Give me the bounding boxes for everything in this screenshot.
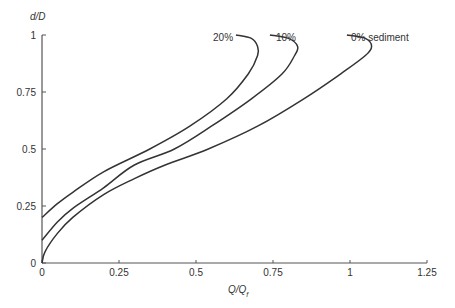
- x-tick-label: 1.25: [417, 267, 437, 278]
- curve-label: 0% sediment: [351, 32, 409, 43]
- curve-labels: 0% sediment10%20%: [213, 32, 409, 43]
- y-tick-label: 0.5: [22, 144, 36, 155]
- x-tick-label: 0: [39, 267, 45, 278]
- y-tick-label: 0: [30, 258, 36, 269]
- curve-label: 10%: [276, 32, 296, 43]
- x-axis-title: Q/Qf: [228, 284, 249, 298]
- y-tick-label: 0.75: [17, 87, 37, 98]
- x-tick-label: 0.25: [109, 267, 129, 278]
- curve-label: 20%: [213, 32, 233, 43]
- curve-2: [42, 35, 259, 217]
- x-tick-label: 0.75: [263, 267, 283, 278]
- x-tick-label: 0.5: [189, 267, 203, 278]
- axes: 00.250.50.7511.2500.250.50.751: [17, 30, 438, 278]
- y-axis-title: d/D: [30, 11, 46, 22]
- curves: [42, 35, 372, 263]
- x-tick-label: 1: [347, 267, 353, 278]
- chart-canvas: 00.250.50.7511.2500.250.50.751 0% sedime…: [0, 0, 455, 308]
- curve-0: [42, 35, 372, 263]
- y-tick-label: 0.25: [17, 201, 37, 212]
- y-tick-label: 1: [30, 30, 36, 41]
